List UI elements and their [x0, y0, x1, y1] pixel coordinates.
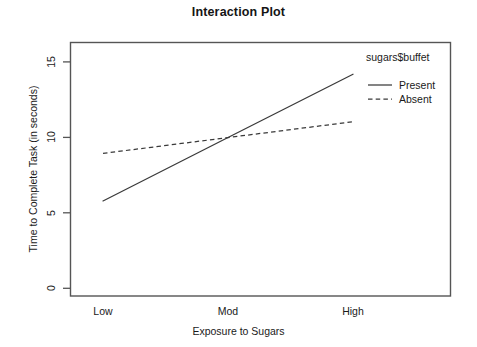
legend-label-absent: Absent: [399, 93, 432, 105]
y-axis-ticks: [63, 62, 71, 288]
y-tick-label-10: 10: [45, 126, 57, 148]
series-line-absent: [103, 122, 353, 154]
x-tick-label-low: Low: [73, 305, 133, 317]
x-axis-title: Exposure to Sugars: [0, 325, 477, 337]
legend-title: sugars$buffet: [366, 51, 429, 63]
plot-box-frame: [71, 43, 451, 297]
y-tick-label-0: 0: [45, 277, 57, 299]
interaction-plot-figure: Interaction Plot 0 5 10 15 Low Mod High …: [0, 0, 477, 347]
y-tick-label-5: 5: [45, 202, 57, 224]
legend-label-present: Present: [399, 79, 435, 91]
x-tick-label-high: High: [323, 305, 383, 317]
y-tick-label-15: 15: [45, 51, 57, 73]
y-axis-title: Time to Complete Task (in seconds): [27, 49, 39, 289]
x-tick-label-mod: Mod: [198, 305, 258, 317]
